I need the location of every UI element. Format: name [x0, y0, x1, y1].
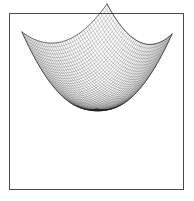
figure-root	[0, 0, 194, 201]
surface-plot-area	[0, 0, 194, 201]
wireframe-mesh-surface	[0, 0, 194, 201]
mesh-wire-group	[22, 4, 172, 111]
